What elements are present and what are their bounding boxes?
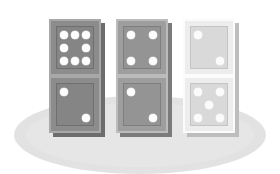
domino-1-edge-right (101, 23, 105, 137)
domino-3-bottom-face (190, 83, 228, 126)
domino-1-top-half (49, 19, 101, 76)
pip (71, 57, 79, 65)
pip (127, 57, 135, 65)
domino-3-top-pips (191, 27, 227, 68)
pip (60, 57, 68, 65)
domino-1-top-pips (57, 27, 93, 68)
pip (194, 88, 202, 96)
pip (127, 31, 135, 39)
pip (60, 31, 68, 39)
pip (216, 57, 224, 65)
domino-1-bottom-pips (57, 84, 93, 125)
pip (82, 57, 90, 65)
domino-3-bottom-half (183, 76, 235, 133)
domino-1-top-face (56, 26, 94, 69)
domino-1[interactable] (49, 19, 105, 137)
domino-2-bottom-face (123, 83, 161, 126)
domino-2-body (116, 19, 168, 133)
pip (194, 31, 202, 39)
pip (149, 31, 157, 39)
domino-2-edge-bottom (120, 133, 172, 137)
domino-3-top-face (190, 26, 228, 69)
pip (216, 114, 224, 122)
domino-1-body (49, 19, 101, 133)
domino-scene (0, 0, 280, 174)
domino-2-edge-right (168, 23, 172, 137)
pip (194, 114, 202, 122)
pip (149, 114, 157, 122)
domino-2-top-pips (124, 27, 160, 68)
domino-2[interactable] (116, 19, 172, 137)
domino-2-bottom-half (116, 76, 168, 133)
domino-3-bottom-pips (191, 84, 227, 125)
pip (71, 31, 79, 39)
domino-3-edge-right (235, 23, 239, 137)
pip (149, 57, 157, 65)
domino-1-edge-bottom (53, 133, 105, 137)
pip (60, 44, 68, 52)
domino-3[interactable] (183, 19, 239, 137)
domino-3-body (183, 19, 235, 133)
domino-3-edge-bottom (187, 133, 239, 137)
pip (205, 101, 213, 109)
pip (127, 88, 135, 96)
pip (82, 114, 90, 122)
pip (82, 44, 90, 52)
pip (60, 88, 68, 96)
domino-1-bottom-face (56, 83, 94, 126)
domino-1-bottom-half (49, 76, 101, 133)
domino-2-bottom-pips (124, 84, 160, 125)
domino-3-top-half (183, 19, 235, 76)
pip (82, 31, 90, 39)
domino-2-top-face (123, 26, 161, 69)
domino-2-top-half (116, 19, 168, 76)
pip (216, 88, 224, 96)
